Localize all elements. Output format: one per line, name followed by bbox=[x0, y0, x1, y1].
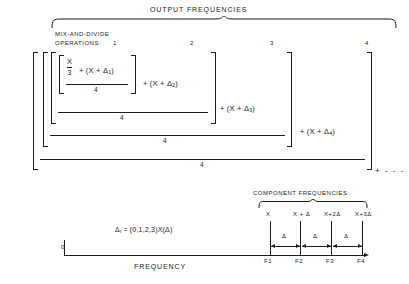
bracket-level-3-left bbox=[43, 52, 48, 147]
component-expression-4: X+3Δ bbox=[355, 211, 372, 217]
operation-number-4: 4 bbox=[365, 40, 369, 46]
component-frequencies-brace bbox=[258, 199, 368, 208]
bracket-level-3-right bbox=[287, 52, 292, 147]
fraction-denominator: 3 bbox=[67, 69, 72, 77]
frequency-axis-line bbox=[64, 255, 364, 256]
delta-term-2-text: + (X + Δ bbox=[143, 79, 172, 88]
frequency-tick-label-f1: F1 bbox=[264, 258, 272, 264]
bracket-level-1-right bbox=[131, 55, 136, 94]
division-bar-level-3 bbox=[50, 135, 285, 136]
spacing-arrow-2-right bbox=[327, 244, 331, 248]
division-bar-level-4 bbox=[40, 159, 365, 160]
component-tick-2 bbox=[300, 221, 301, 255]
bracket-level-4-left bbox=[33, 52, 38, 170]
output-frequencies-brace bbox=[50, 16, 398, 28]
component-expression-2: X + Δ bbox=[293, 211, 310, 217]
operation-number-2: 2 bbox=[190, 40, 194, 46]
division-bar-level-2 bbox=[58, 112, 208, 113]
delta-term-3-close: ) bbox=[252, 104, 255, 113]
diagram-title: OUTPUT FREQUENCIES bbox=[150, 6, 247, 13]
spacing-arrow-3-right bbox=[358, 244, 362, 248]
bracket-level-2-left bbox=[51, 52, 56, 124]
delta-definition-equation: Δi = (0,1,2,3)X(Δ) bbox=[115, 226, 173, 234]
delta-term-2: + (X + Δ2) bbox=[143, 79, 178, 88]
inner-fraction: X 3 bbox=[67, 58, 72, 79]
component-tick-1 bbox=[270, 221, 271, 255]
axis-origin-tick bbox=[64, 240, 65, 255]
operation-number-3: 3 bbox=[270, 40, 274, 46]
divisor-level-2: 4 bbox=[120, 114, 124, 121]
delta-term-3-text: + (X + Δ bbox=[220, 104, 249, 113]
operations-label-line1: MIX-AND-DIVIDE bbox=[55, 31, 109, 37]
delta-term-4-close: ) bbox=[332, 127, 335, 136]
component-tick-3 bbox=[331, 221, 332, 255]
fraction-numerator: X bbox=[67, 58, 72, 66]
frequency-tick-label-f2: F2 bbox=[295, 258, 303, 264]
delta-term-2-close: ) bbox=[175, 79, 178, 88]
x-over-3-fraction: X 3 bbox=[67, 58, 72, 77]
fraction-bar bbox=[67, 67, 72, 68]
divisor-level-3: 4 bbox=[163, 137, 167, 144]
operation-number-1: 1 bbox=[113, 40, 117, 46]
inner-delta-close: ) bbox=[111, 66, 114, 75]
inner-delta-term: + (X + Δ1) bbox=[79, 66, 114, 75]
spacing-label-1: Δ bbox=[282, 233, 287, 239]
component-frequencies-title: COMPONENT FREQUENCIES bbox=[253, 190, 347, 196]
bracket-level-4-right bbox=[367, 52, 372, 170]
inner-delta-term-text: + (X + Δ bbox=[79, 66, 108, 75]
bracket-level-1-left bbox=[59, 55, 64, 94]
frequency-tick-label-f3: F3 bbox=[326, 258, 334, 264]
spacing-label-2: Δ bbox=[313, 233, 318, 239]
frequency-axis-arrowhead bbox=[364, 253, 369, 257]
component-expression-3: X+2Δ bbox=[324, 211, 341, 217]
frequency-tick-label-f4: F4 bbox=[357, 258, 365, 264]
spacing-arrow-1-right bbox=[296, 244, 300, 248]
delta-term-4-text: + (X + Δ bbox=[300, 127, 329, 136]
component-expression-1: X bbox=[266, 211, 271, 217]
division-bar-level-1 bbox=[66, 84, 128, 85]
delta-term-3: + (X + Δ3) bbox=[220, 104, 255, 113]
divisor-level-4: 4 bbox=[200, 161, 204, 168]
frequency-axis-label: FREQUENCY bbox=[134, 263, 186, 270]
continuation-marker: + - - - bbox=[375, 166, 405, 175]
spacing-label-3: Δ bbox=[344, 233, 349, 239]
divisor-level-1: 4 bbox=[94, 86, 98, 93]
operations-label-line2: OPERATIONS: bbox=[55, 40, 101, 46]
delta-term-4: + (X + Δ4) bbox=[300, 127, 335, 136]
component-tick-4 bbox=[362, 221, 363, 255]
delta-index-subscript: i bbox=[120, 228, 121, 234]
bracket-level-2-right bbox=[211, 52, 216, 124]
delta-equation-rhs: = (0,1,2,3)X(Δ) bbox=[123, 226, 172, 233]
